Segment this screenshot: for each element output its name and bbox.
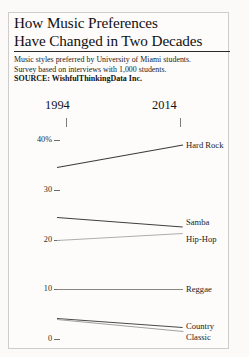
y-axis-tick-label: 0 (26, 334, 52, 343)
y-axis-tick-label: 20 (26, 235, 52, 244)
series-label-hip-hop: Hip-Hop (186, 234, 217, 244)
series-line-country (57, 318, 183, 328)
series-line-reggae (57, 289, 183, 290)
slope-chart: 1994 2014 40%3020100 Hard RockSambaHip-H… (0, 0, 249, 357)
series-label-country: Country (186, 321, 214, 331)
axis-year-2014: 2014 (152, 98, 177, 113)
series-line-samba (57, 217, 183, 227)
infographic-card: How Music Preferences Have Changed in Tw… (0, 0, 249, 357)
y-axis-tick-label: 10 (26, 284, 52, 293)
series-label-hard-rock: Hard Rock (186, 140, 223, 150)
series-line-hip-hop (57, 233, 183, 241)
y-axis-tick-mark (54, 339, 60, 340)
y-axis-tick-mark (54, 190, 60, 191)
series-label-classic: Classic (186, 332, 211, 342)
series-label-samba: Samba (186, 217, 209, 227)
series-line-hard-rock (57, 145, 183, 168)
y-axis-tick-mark (54, 140, 60, 141)
y-axis-tick-label: 30 (26, 185, 52, 194)
axis-year-1994: 1994 (45, 98, 70, 113)
year-tick-right (180, 118, 181, 127)
year-tick-left (66, 118, 67, 127)
series-label-reggae: Reggae (186, 284, 212, 294)
y-axis-tick-label: 40% (26, 135, 52, 144)
